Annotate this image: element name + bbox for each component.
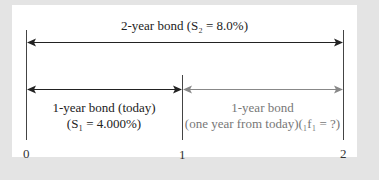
- one-year-bond-forward-line2: (one year from today)(₁f₁ = ?): [182, 116, 343, 132]
- one-year-bond-today-label: 1-year bond (today) (S₁ = 4.000%): [26, 100, 182, 132]
- one-year-bond-forward-line1: 1-year bond: [182, 100, 343, 116]
- tick-2: 2: [340, 146, 347, 162]
- one-year-bond-today-line1: 1-year bond (today): [26, 100, 182, 116]
- tick-0: 0: [23, 146, 30, 162]
- one-year-bond-today-line2: (S₁ = 4.000%): [26, 116, 182, 132]
- two-year-bond-label: 2-year bond (S₂ = 8.0%): [26, 18, 343, 34]
- tick-1: 1: [179, 147, 186, 163]
- one-year-bond-forward-label: 1-year bond (one year from today)(₁f₁ = …: [182, 100, 343, 132]
